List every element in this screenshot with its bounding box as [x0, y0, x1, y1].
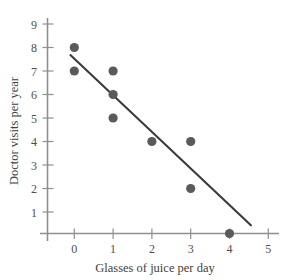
y-axis-title: Doctor visits per year: [7, 76, 21, 185]
x-tick-label-4: 4: [227, 242, 233, 256]
y-tick-labels: 9 8 7 6 5 4 3 2 1: [31, 18, 37, 220]
data-point: [186, 137, 195, 146]
data-point: [109, 90, 118, 99]
x-tick-label-2: 2: [149, 242, 155, 256]
data-point: [147, 137, 156, 146]
scatter-plot-figure: 9 8 7 6 5 4 3 2 1 0 1 2 3 4 5: [0, 0, 297, 280]
data-point: [186, 184, 195, 193]
y-tick-label-9: 9: [31, 18, 37, 32]
data-point: [70, 66, 79, 75]
y-tick-label-7: 7: [31, 65, 37, 79]
y-tick-label-5: 5: [31, 112, 37, 126]
y-tick-label-8: 8: [31, 41, 37, 55]
y-tick-label-2: 2: [31, 182, 37, 196]
x-tick-label-5: 5: [265, 242, 271, 256]
y-tick-label-6: 6: [31, 88, 37, 102]
data-point: [70, 43, 79, 52]
y-tick-label-3: 3: [31, 159, 37, 173]
data-point: [109, 66, 118, 75]
x-tick-label-0: 0: [71, 242, 77, 256]
x-axis-title: Glasses of juice per day: [95, 261, 215, 275]
data-point: [109, 113, 118, 122]
data-point: [225, 229, 234, 238]
y-tick-label-1: 1: [31, 206, 37, 220]
x-tick-label-3: 3: [188, 242, 194, 256]
y-tick-label-4: 4: [31, 135, 37, 149]
x-tick-label-1: 1: [110, 242, 116, 256]
chart-page: 9 8 7 6 5 4 3 2 1 0 1 2 3 4 5: [0, 0, 297, 280]
